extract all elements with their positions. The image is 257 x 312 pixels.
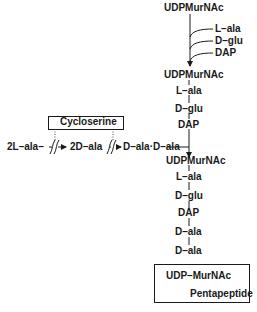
cycloserine-label: Cycloserine — [60, 117, 117, 127]
addition-dap: DAP — [215, 48, 236, 58]
udpmurnac-bottom: UDPMurNAc — [166, 156, 225, 166]
result-udp-murnac: UDP–MurNAc — [166, 271, 231, 281]
udpmurnac-tripeptide: UDPMurNAc — [164, 70, 223, 80]
substrate-2l-ala: 2L–ala– — [7, 142, 44, 152]
middle-dap: DAP — [178, 120, 199, 130]
middle-l-ala: L–ala — [176, 86, 202, 96]
result-pentapeptide: Pentapeptide — [190, 289, 253, 299]
addition-l-ala: L–ala — [215, 24, 241, 34]
bottom-d-glu: D–glu — [175, 191, 203, 201]
intermediate-2d-ala: 2D–ala — [70, 142, 102, 152]
curve-dap — [190, 53, 213, 61]
bottom-d-ala-2: D–ala — [175, 246, 202, 256]
bottom-d-ala-1: D–ala — [175, 227, 202, 237]
bottom-l-ala: L–ala — [176, 172, 202, 182]
block-mark-2a — [107, 140, 112, 154]
udpmurnac-start: UDPMurNAc — [164, 3, 223, 13]
peptidoglycan-pathway-diagram: UDPMurNAc L–ala D–glu DAP UDPMurNAc L–al… — [0, 0, 257, 312]
block-mark-2b — [111, 140, 116, 154]
product-d-ala-d-ala: D–ala·D–ala — [123, 142, 180, 152]
middle-d-glu: D–glu — [175, 104, 203, 114]
curve-l-ala — [190, 29, 213, 37]
curve-d-glu — [190, 41, 213, 49]
addition-d-glu: D–glu — [215, 36, 243, 46]
bottom-dap: DAP — [178, 208, 199, 218]
